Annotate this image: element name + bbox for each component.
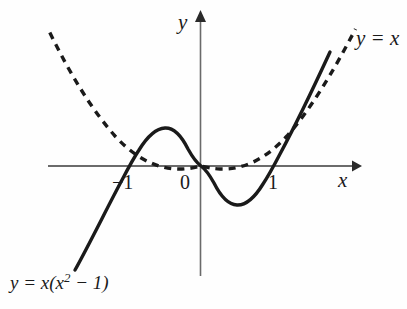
x-axis-arrowhead-icon	[352, 161, 362, 172]
y-axis-arrowhead-icon	[195, 10, 206, 22]
cubic-equation-label: y = x(x2 − 1)	[10, 272, 109, 292]
x-axis-label: x	[338, 170, 347, 191]
origin-label-zero: 0	[180, 172, 190, 192]
cubic-curve	[75, 52, 330, 270]
cubic-equation-lhs: y = x(x	[10, 272, 64, 293]
cubic-equation-rhs: − 1)	[70, 272, 108, 293]
parabola-equation-label: y = x	[356, 28, 399, 49]
plot-canvas	[0, 0, 407, 309]
y-axis-label: y	[178, 12, 187, 33]
x-tick-label-one: 1	[268, 172, 278, 192]
x-tick-label-negative-one: −1	[112, 172, 133, 192]
graph-figure: y x −1 0 1 y = x(x2 − 1) y = x	[0, 0, 407, 309]
